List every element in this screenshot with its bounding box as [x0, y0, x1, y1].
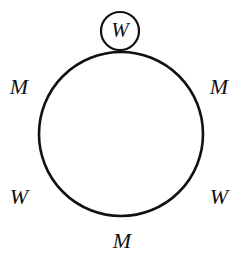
- table-circle: [39, 52, 203, 216]
- seat-label-bottom: M: [107, 230, 137, 252]
- seat-label-top: W: [105, 20, 135, 41]
- seat-label-lower-right: W: [204, 186, 234, 208]
- seat-label-lower-left: W: [4, 186, 34, 208]
- seat-label-upper-right: M: [204, 76, 234, 98]
- diagram-canvas: W M M W W M: [0, 0, 248, 263]
- seat-label-upper-left: M: [4, 76, 34, 98]
